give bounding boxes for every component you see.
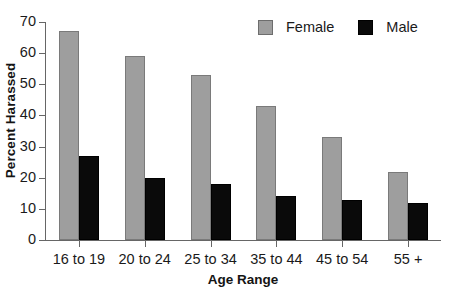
bar-group [178, 22, 244, 240]
x-axis-tick-label: 35 to 44 [244, 252, 310, 267]
y-axis-tick [39, 84, 45, 85]
bar-group [46, 22, 112, 240]
y-axis-tick-label: 0 [3, 232, 36, 247]
y-axis-tick-label: 20 [3, 170, 36, 185]
plot-area [46, 22, 441, 240]
bar-female-45-to-54 [322, 137, 342, 240]
bar-male-35-to-44 [276, 196, 296, 240]
y-axis-tick-label-wrap: 50 [0, 84, 36, 85]
y-axis-tick-label-wrap: 40 [0, 115, 36, 116]
bar-chart: Female Male Percent Harassed 01020304050… [0, 0, 465, 298]
y-axis-tick-label: 10 [3, 201, 36, 216]
x-axis-tick-label: 25 to 34 [178, 252, 244, 267]
x-axis-tick-label: 20 to 24 [112, 252, 178, 267]
x-axis-tick [211, 241, 212, 247]
bar-female-20-to-24 [125, 56, 145, 240]
y-axis-tick [39, 53, 45, 54]
bar-female-35-to-44 [256, 106, 276, 240]
bar-group [112, 22, 178, 240]
y-axis-tick-label-wrap: 60 [0, 53, 36, 54]
x-axis-tick [79, 241, 80, 247]
y-axis-tick-label-wrap: 0 [0, 240, 36, 241]
x-axis-tick [145, 241, 146, 247]
y-axis-tick-label: 50 [3, 76, 36, 91]
x-axis-line [45, 240, 441, 241]
y-axis-tick-label: 70 [3, 14, 36, 29]
y-axis-tick [39, 178, 45, 179]
y-axis-tick-label: 30 [3, 139, 36, 154]
bar-female-55-+ [388, 172, 408, 241]
y-axis-tick [39, 209, 45, 210]
x-axis-tick-label: 45 to 54 [309, 252, 375, 267]
bar-group [309, 22, 375, 240]
x-axis-tick [276, 241, 277, 247]
bar-male-45-to-54 [342, 200, 362, 240]
y-axis-tick [39, 147, 45, 148]
x-axis-tick-label: 16 to 19 [46, 252, 112, 267]
bar-female-25-to-34 [191, 75, 211, 240]
y-axis-tick-label-wrap: 20 [0, 178, 36, 179]
x-axis-title: Age Range [45, 272, 441, 287]
bar-group [244, 22, 310, 240]
y-axis-tick-label-wrap: 10 [0, 209, 36, 210]
bar-female-16-to-19 [59, 31, 79, 240]
y-axis-tick-label: 60 [3, 45, 36, 60]
x-axis-tick [342, 241, 343, 247]
y-axis-tick-label-wrap: 70 [0, 22, 36, 23]
x-axis-tick-label: 55 + [375, 252, 441, 267]
y-axis-tick-label-wrap: 30 [0, 147, 36, 148]
y-axis-tick [39, 22, 45, 23]
bar-male-20-to-24 [145, 178, 165, 240]
bar-group [375, 22, 441, 240]
y-axis-tick [39, 240, 45, 241]
y-axis-tick [39, 115, 45, 116]
bar-male-25-to-34 [211, 184, 231, 240]
bar-male-16-to-19 [79, 156, 99, 240]
x-axis-tick [408, 241, 409, 247]
bar-male-55-+ [408, 203, 428, 240]
y-axis-tick-label: 40 [3, 107, 36, 122]
